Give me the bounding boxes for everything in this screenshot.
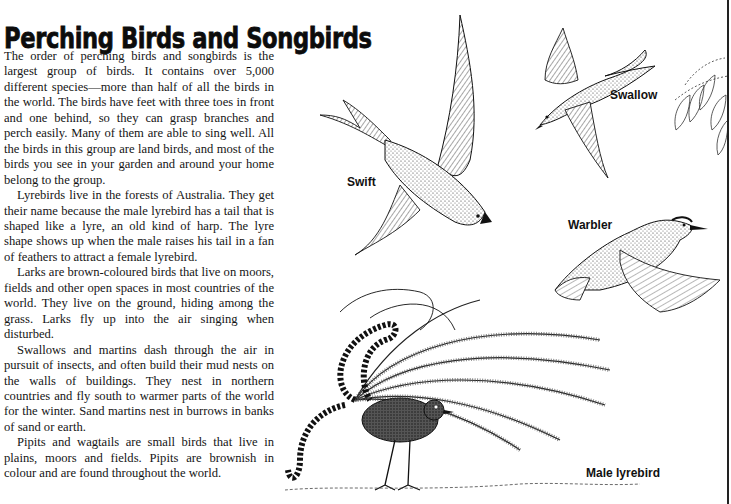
paragraph-swallows: Swallows and martins dash through the ai… — [4, 343, 274, 436]
swallow-illustration — [535, 28, 655, 178]
body-text: The order of perching birds and songbird… — [4, 49, 274, 482]
paragraph-larks: Larks are brown-coloured birds that live… — [4, 265, 274, 342]
swift-illustration — [320, 15, 492, 255]
swallow-label: Swallow — [610, 88, 657, 102]
swift-label: Swift — [347, 175, 376, 189]
paragraph-pipits: Pipits and wagtails are small birds that… — [4, 435, 274, 481]
lyrebird-illustration — [285, 289, 640, 490]
book-page: Perching Birds and Songbirds The order o… — [0, 0, 731, 504]
leaves-illustration — [675, 58, 728, 155]
warbler-label: Warbler — [568, 218, 612, 232]
page-edge-line — [727, 0, 729, 504]
paragraph-lyrebirds: Lyrebirds live in the forests of Austral… — [4, 188, 274, 265]
paragraph-intro: The order of perching birds and songbird… — [4, 49, 274, 188]
lyrebird-label: Male lyrebird — [586, 466, 660, 480]
bird-illustrations — [280, 0, 731, 504]
